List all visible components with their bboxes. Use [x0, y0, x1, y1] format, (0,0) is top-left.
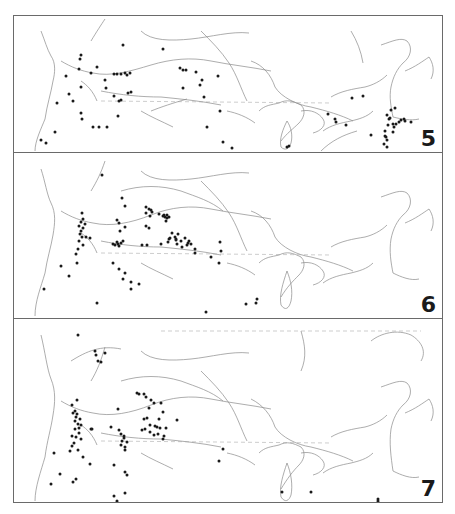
- occurrence-dot: [334, 118, 337, 121]
- occurrence-dot: [392, 131, 395, 134]
- occurrence-dot: [186, 244, 189, 247]
- occurrence-dot: [121, 440, 124, 443]
- occurrence-dot: [77, 423, 80, 426]
- occurrence-dot: [176, 243, 179, 246]
- occurrence-dot: [130, 281, 133, 284]
- occurrence-dot: [159, 427, 162, 430]
- occurrence-dot: [138, 283, 141, 286]
- panel-number-5: 5: [421, 128, 436, 150]
- occurrence-dot: [143, 418, 146, 421]
- occurrence-dot: [77, 248, 80, 251]
- occurrence-dot: [389, 117, 392, 120]
- occurrence-dot: [218, 460, 221, 463]
- occurrence-dot: [127, 92, 130, 95]
- occurrence-dot: [126, 474, 129, 477]
- occurrence-dot: [110, 426, 113, 429]
- occurrence-dot: [149, 424, 152, 427]
- occurrence-dot: [81, 236, 84, 239]
- occurrence-dot: [72, 481, 75, 484]
- map-panel-7: 7: [13, 318, 443, 503]
- occurrence-dot: [113, 495, 116, 498]
- occurrence-dot: [71, 435, 74, 438]
- occurrence-dot: [158, 213, 161, 216]
- occurrence-dot: [92, 126, 95, 129]
- occurrence-dot: [222, 141, 225, 144]
- occurrence-dot: [82, 227, 85, 230]
- occurrence-dot: [85, 236, 88, 239]
- occurrence-dot: [124, 205, 127, 208]
- occurrence-dot: [78, 427, 81, 430]
- occurrence-dot: [124, 446, 127, 449]
- occurrence-dot: [231, 147, 234, 150]
- occurrence-dot: [123, 437, 126, 440]
- occurrence-dot: [146, 417, 149, 420]
- occurrence-dot: [75, 478, 78, 481]
- occurrence-dot: [105, 87, 108, 90]
- occurrence-dot: [184, 237, 187, 240]
- occurrence-dot: [255, 302, 258, 305]
- occurrence-dot: [163, 435, 166, 438]
- occurrence-dot: [116, 73, 119, 76]
- occurrence-dot: [377, 500, 380, 503]
- occurrence-dot: [72, 100, 75, 103]
- occurrence-dot: [89, 463, 92, 466]
- occurrence-dot: [281, 491, 284, 494]
- occurrence-dot: [157, 433, 160, 436]
- occurrence-dot: [124, 492, 127, 495]
- occurrence-dot: [74, 420, 77, 423]
- occurrence-dot: [74, 428, 77, 431]
- occurrence-dot: [112, 262, 115, 265]
- occurrence-dot: [75, 436, 78, 439]
- occurrence-dot: [149, 431, 152, 434]
- occurrence-dot: [121, 197, 124, 200]
- occurrence-dot: [370, 134, 373, 137]
- occurrence-dot: [205, 311, 208, 314]
- occurrence-dot: [148, 227, 151, 230]
- north-america-basemap: [14, 153, 443, 319]
- occurrence-dots: [43, 174, 259, 314]
- occurrence-dot: [96, 66, 99, 69]
- occurrence-dot: [210, 256, 213, 259]
- occurrence-dot: [351, 97, 354, 100]
- occurrence-dot: [117, 115, 120, 118]
- occurrence-dot: [54, 131, 57, 134]
- occurrence-dot: [53, 452, 56, 455]
- occurrence-dot: [245, 303, 248, 306]
- occurrence-dot: [201, 79, 204, 82]
- occurrence-dot: [158, 418, 161, 421]
- occurrence-dot: [195, 71, 198, 74]
- occurrence-dot: [79, 58, 82, 61]
- occurrence-dot: [386, 139, 389, 142]
- occurrence-dot: [362, 95, 365, 98]
- occurrence-dot: [80, 438, 83, 441]
- occurrence-dot: [145, 396, 148, 399]
- occurrence-dot: [80, 221, 83, 224]
- occurrence-dot: [77, 334, 80, 337]
- occurrence-dot: [117, 408, 120, 411]
- occurrence-dot: [386, 114, 389, 117]
- occurrence-dot: [165, 427, 168, 430]
- occurrence-dot: [288, 145, 291, 148]
- occurrence-dot: [175, 239, 178, 242]
- occurrence-dot: [45, 142, 48, 145]
- map-panel-6: 6: [13, 152, 443, 319]
- occurrence-dot: [68, 93, 71, 96]
- occurrence-dot: [150, 399, 153, 402]
- occurrence-dot: [335, 121, 338, 124]
- occurrence-dot: [91, 428, 94, 431]
- occurrence-dot: [126, 441, 129, 444]
- occurrence-dot: [73, 442, 76, 445]
- occurrence-dot: [345, 124, 348, 127]
- occurrence-dot: [383, 143, 386, 146]
- occurrence-dot: [144, 428, 147, 431]
- occurrence-dot: [80, 112, 83, 115]
- occurrence-dot: [404, 120, 407, 123]
- occurrence-dot: [181, 246, 184, 249]
- occurrence-dot: [124, 449, 127, 452]
- occurrence-dot: [68, 275, 71, 278]
- occurrence-dot: [94, 350, 97, 353]
- occurrence-dot: [194, 252, 197, 255]
- occurrence-dot: [72, 412, 75, 415]
- occurrence-dot: [78, 240, 81, 243]
- occurrence-dot: [104, 352, 107, 355]
